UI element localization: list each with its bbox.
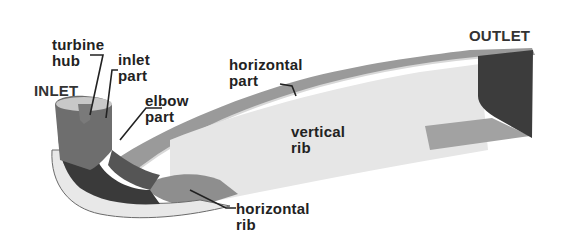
turbine-hub-label: turbine hub bbox=[52, 37, 104, 69]
inlet-label: INLET bbox=[34, 83, 78, 99]
outlet-label: OUTLET bbox=[469, 28, 530, 44]
horizontal-part-label: horizontal part bbox=[229, 57, 303, 89]
inlet-part-label: inlet part bbox=[118, 52, 150, 84]
vertical-rib-label: vertical rib bbox=[291, 124, 345, 156]
horizontal-rib-label: horizontal rib bbox=[236, 201, 310, 233]
elbow-part-label: elbow part bbox=[145, 93, 189, 125]
